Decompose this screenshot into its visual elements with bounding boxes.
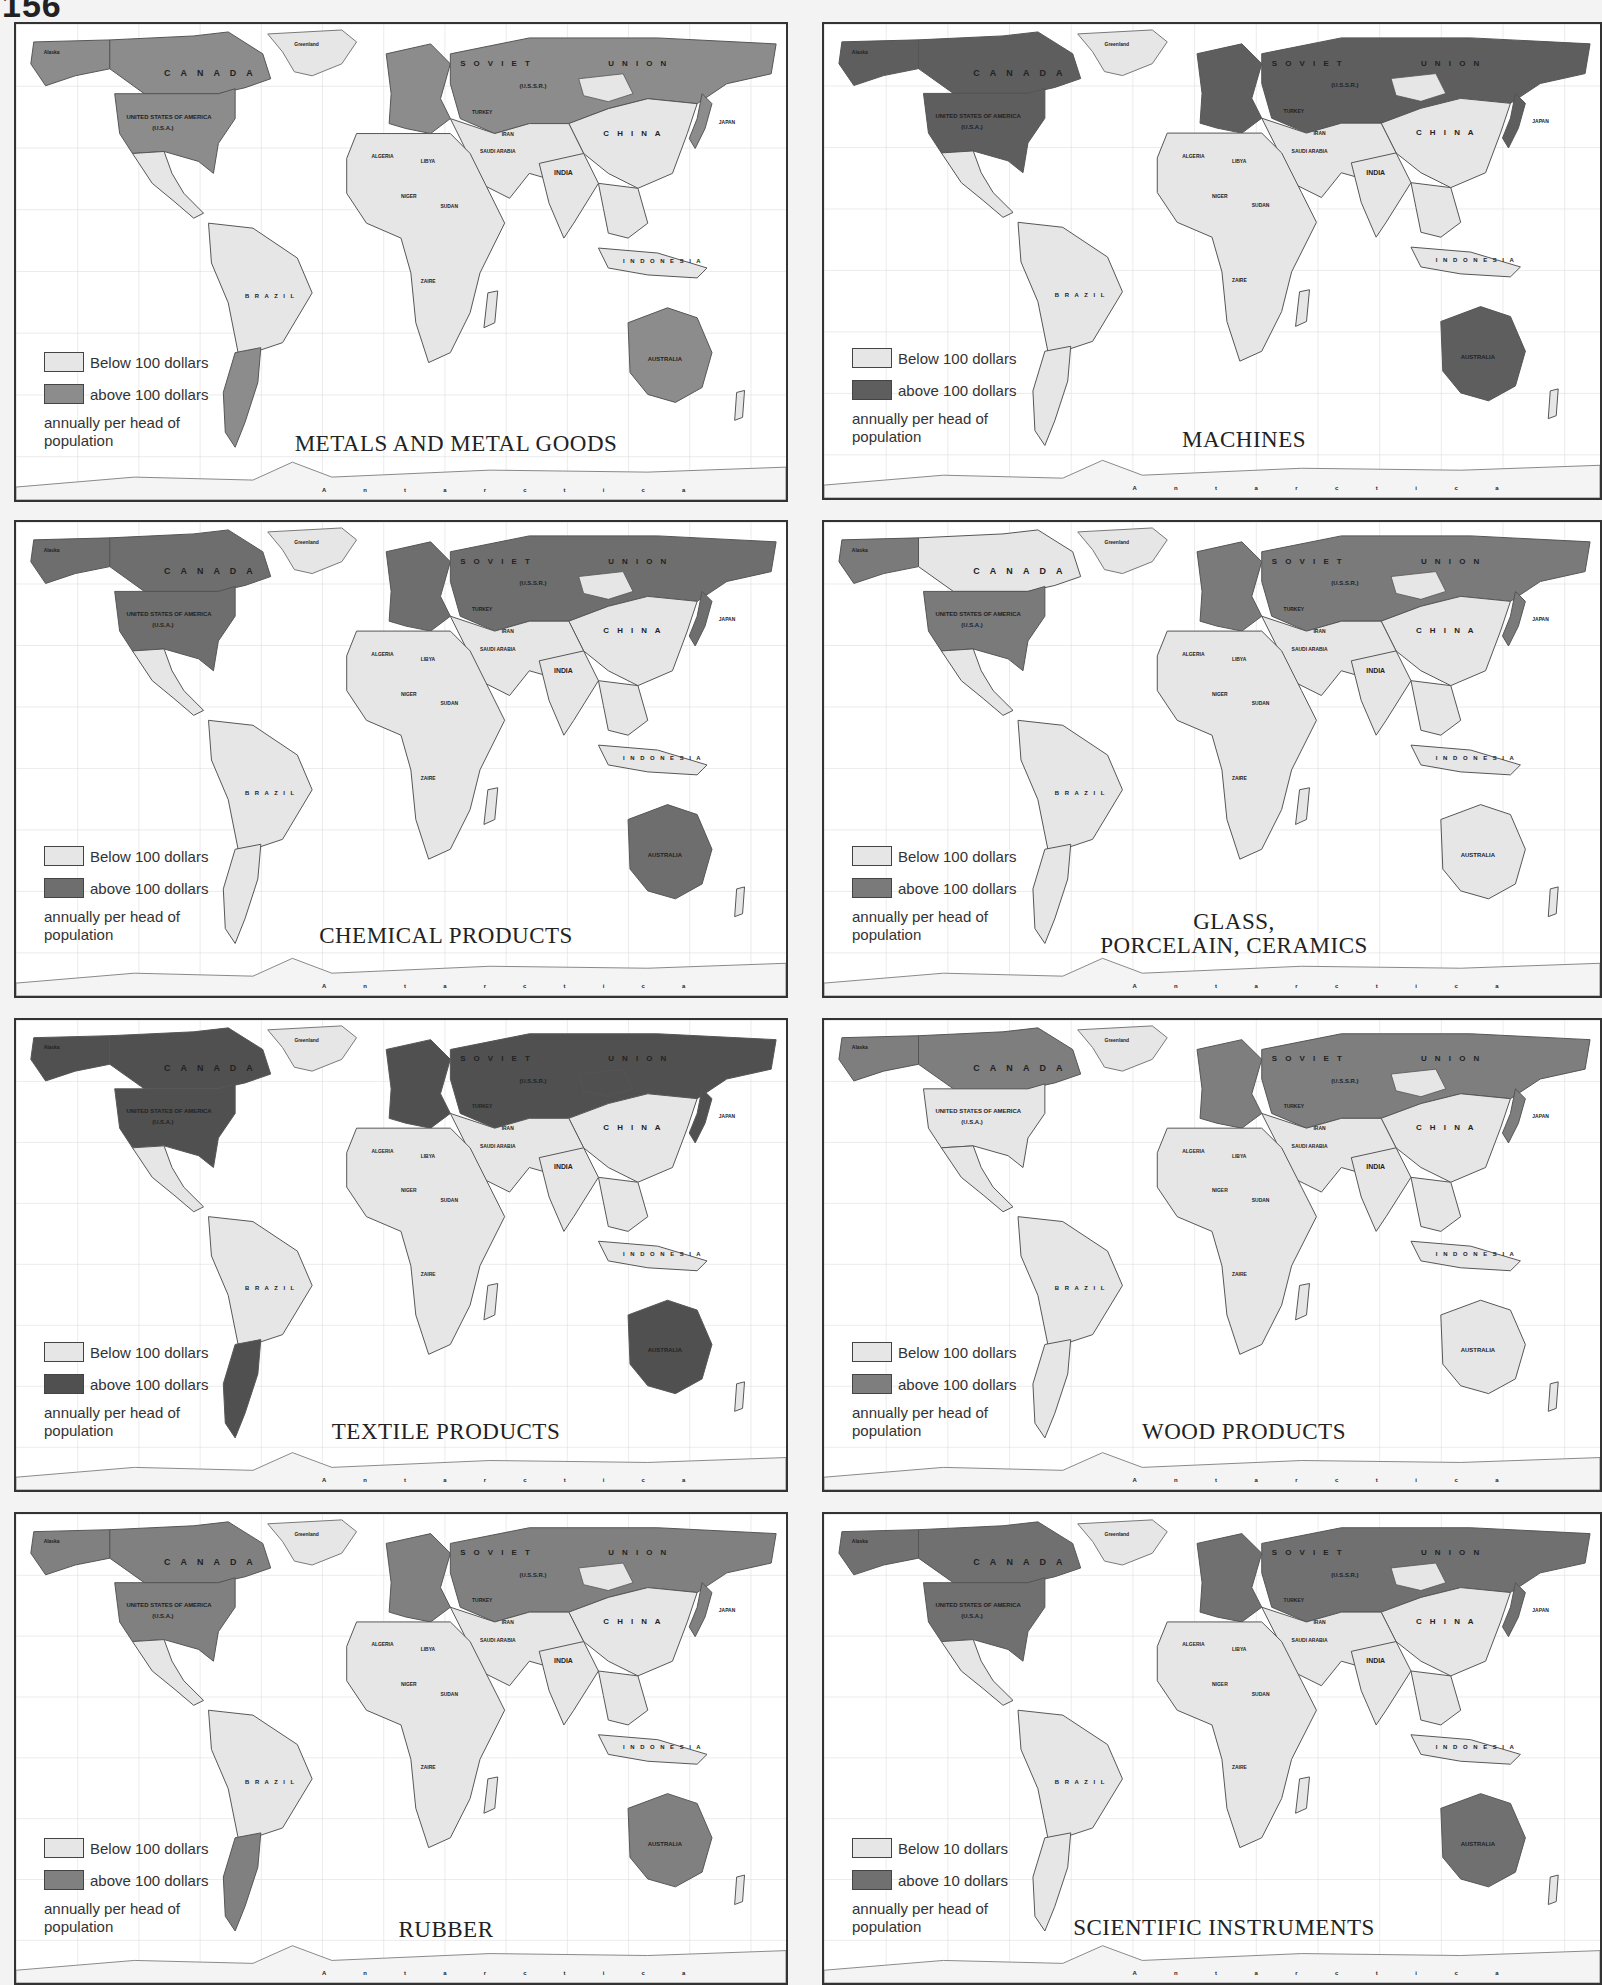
legend-above-label: above 100 dollars	[898, 880, 1016, 897]
legend-above-label: above 100 dollars	[898, 382, 1016, 399]
svg-text:AUSTRALIA: AUSTRALIA	[648, 1347, 683, 1353]
svg-text:A n t a r c t i c a: A n t a r c t i c a	[1132, 1970, 1516, 1976]
svg-text:I N D O N E S I A: I N D O N E S I A	[623, 258, 702, 264]
svg-text:Greenland: Greenland	[1105, 1532, 1130, 1537]
svg-text:TURKEY: TURKEY	[472, 1105, 493, 1110]
svg-text:INDIA: INDIA	[554, 1657, 573, 1664]
svg-text:ALGERIA: ALGERIA	[1182, 652, 1205, 657]
svg-text:IRAN: IRAN	[1313, 629, 1326, 634]
svg-text:IRAN: IRAN	[1313, 1126, 1326, 1131]
svg-text:SAUDI ARABIA: SAUDI ARABIA	[480, 647, 516, 652]
svg-text:Alaska: Alaska	[852, 50, 868, 55]
legend-above-swatch	[852, 380, 892, 400]
svg-text:JAPAN: JAPAN	[719, 1114, 736, 1119]
map-legend: Below 100 dollars above 100 dollars annu…	[44, 1832, 208, 1936]
svg-text:TURKEY: TURKEY	[1284, 1598, 1305, 1603]
svg-text:SAUDI ARABIA: SAUDI ARABIA	[1292, 647, 1328, 652]
svg-text:Alaska: Alaska	[44, 548, 60, 553]
legend-note: annually per head of population	[852, 410, 1012, 446]
svg-text:SAUDI ARABIA: SAUDI ARABIA	[1292, 1638, 1328, 1643]
svg-text:S O V I E T: S O V I E T	[1272, 557, 1345, 566]
map-panel-wood: C A N A D A UNITED STATES OF AMERICA (U.…	[822, 1018, 1602, 1492]
legend-below-row: Below 100 dollars	[44, 1336, 208, 1368]
svg-text:C A N A D A: C A N A D A	[973, 566, 1066, 576]
svg-text:(U.S.A.): (U.S.A.)	[152, 1613, 173, 1619]
svg-text:SUDAN: SUDAN	[1252, 1692, 1270, 1697]
svg-text:ALGERIA: ALGERIA	[1182, 1149, 1205, 1154]
svg-text:SAUDI ARABIA: SAUDI ARABIA	[1292, 1144, 1328, 1149]
svg-text:B R A Z I L: B R A Z I L	[1055, 1779, 1107, 1785]
svg-text:B R A Z I L: B R A Z I L	[245, 1285, 296, 1291]
svg-text:IRAN: IRAN	[502, 1620, 514, 1625]
svg-text:INDIA: INDIA	[554, 667, 573, 674]
svg-text:B R A Z I L: B R A Z I L	[1055, 1285, 1107, 1291]
legend-below-label: Below 10 dollars	[898, 1840, 1008, 1857]
legend-above-label: above 100 dollars	[90, 1376, 208, 1393]
svg-text:SUDAN: SUDAN	[440, 1692, 458, 1697]
svg-text:AUSTRALIA: AUSTRALIA	[1461, 1347, 1496, 1353]
svg-text:Alaska: Alaska	[44, 50, 60, 55]
svg-text:IRAN: IRAN	[502, 132, 514, 137]
legend-note: annually per head of population	[44, 414, 204, 450]
legend-below-label: Below 100 dollars	[90, 354, 208, 371]
svg-text:TURKEY: TURKEY	[472, 1598, 493, 1603]
svg-text:ALGERIA: ALGERIA	[371, 652, 394, 657]
svg-text:NIGER: NIGER	[1212, 1188, 1228, 1193]
svg-text:UNITED STATES OF AMERICA: UNITED STATES OF AMERICA	[935, 611, 1021, 617]
map-panel-chemicals: C A N A D A UNITED STATES OF AMERICA (U.…	[14, 520, 788, 998]
legend-below-label: Below 100 dollars	[90, 1840, 208, 1857]
svg-text:ZAIRE: ZAIRE	[1232, 278, 1248, 283]
svg-text:INDIA: INDIA	[554, 169, 573, 176]
legend-above-row: above 100 dollars	[44, 1368, 208, 1400]
svg-text:ALGERIA: ALGERIA	[1182, 154, 1205, 159]
map-title: MACHINES	[1114, 428, 1374, 452]
svg-text:(U.S.S.R.): (U.S.S.R.)	[1331, 580, 1358, 586]
svg-text:U N I O N: U N I O N	[608, 59, 669, 68]
svg-text:UNITED STATES OF AMERICA: UNITED STATES OF AMERICA	[127, 1602, 213, 1608]
svg-text:SAUDI ARABIA: SAUDI ARABIA	[1292, 149, 1328, 154]
svg-text:(U.S.S.R.): (U.S.S.R.)	[519, 1572, 546, 1578]
svg-text:IRAN: IRAN	[1313, 1620, 1326, 1625]
svg-text:C H I N A: C H I N A	[1416, 626, 1477, 635]
svg-text:NIGER: NIGER	[401, 692, 417, 697]
svg-text:TURKEY: TURKEY	[472, 110, 493, 115]
svg-text:A n t a r c t i c a: A n t a r c t i c a	[322, 983, 703, 989]
svg-text:I N D O N E S I A: I N D O N E S I A	[1436, 755, 1516, 761]
svg-text:IRAN: IRAN	[1313, 131, 1326, 136]
map-title: CHEMICAL PRODUCTS	[276, 924, 616, 948]
legend-below-label: Below 100 dollars	[90, 1344, 208, 1361]
svg-text:S O V I E T: S O V I E T	[460, 557, 532, 566]
svg-text:Greenland: Greenland	[294, 1038, 318, 1043]
legend-below-row: Below 10 dollars	[852, 1832, 1012, 1864]
legend-below-row: Below 100 dollars	[44, 840, 208, 872]
legend-above-swatch	[44, 1374, 84, 1394]
svg-text:JAPAN: JAPAN	[1532, 1608, 1549, 1613]
svg-text:(U.S.A.): (U.S.A.)	[961, 622, 982, 628]
svg-text:UNITED STATES OF AMERICA: UNITED STATES OF AMERICA	[935, 1108, 1021, 1114]
legend-above-row: above 100 dollars	[852, 1368, 1016, 1400]
svg-text:Alaska: Alaska	[852, 1046, 868, 1051]
map-legend: Below 100 dollars above 100 dollars annu…	[852, 1336, 1016, 1440]
svg-text:C A N A D A: C A N A D A	[164, 1557, 257, 1567]
svg-text:B R A Z I L: B R A Z I L	[1055, 292, 1107, 298]
svg-text:INDIA: INDIA	[1366, 1657, 1385, 1664]
svg-text:I N D O N E S I A: I N D O N E S I A	[623, 1744, 702, 1750]
svg-text:(U.S.A.): (U.S.A.)	[961, 1119, 983, 1125]
legend-above-swatch	[852, 878, 892, 898]
svg-text:(U.S.S.R.): (U.S.S.R.)	[519, 1078, 546, 1084]
svg-text:C A N A D A: C A N A D A	[164, 68, 257, 78]
legend-below-row: Below 100 dollars	[852, 1336, 1016, 1368]
svg-text:SUDAN: SUDAN	[440, 701, 458, 706]
map-panel-machines: C A N A D A UNITED STATES OF AMERICA (U.…	[822, 22, 1602, 500]
svg-text:C A N A D A: C A N A D A	[973, 1063, 1066, 1073]
svg-text:A n t a r c t i c a: A n t a r c t i c a	[322, 1970, 703, 1976]
svg-text:C H I N A: C H I N A	[603, 1123, 663, 1132]
map-panel-metals: C A N A D A UNITED STATES OF AMERICA (U.…	[14, 22, 788, 502]
map-title: GLASS,PORCELAIN, CERAMICS	[1064, 910, 1404, 958]
svg-text:ZAIRE: ZAIRE	[421, 279, 436, 284]
svg-text:NIGER: NIGER	[401, 194, 417, 199]
legend-note: annually per head of population	[44, 1404, 204, 1440]
legend-below-label: Below 100 dollars	[898, 848, 1016, 865]
svg-text:IRAN: IRAN	[502, 1126, 514, 1131]
svg-text:C H I N A: C H I N A	[603, 626, 663, 635]
